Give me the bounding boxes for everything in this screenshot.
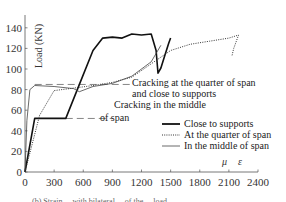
- y-tick-label: 140: [6, 22, 23, 34]
- x-tick-label: 2400: [247, 176, 270, 188]
- x-axis-label-epsilon: ε: [238, 156, 242, 167]
- x-tick-label: 1200: [131, 176, 154, 188]
- y-tick-label: 40: [11, 125, 23, 137]
- legend-label-close-to-supports: Close to supports: [184, 118, 254, 129]
- load-strain-chart: 020406080100120140 030060090012001500180…: [0, 0, 286, 202]
- annotation-quarter-line1: Cracking at the quarter of span: [132, 77, 256, 88]
- y-axis-label: Load (KN): [33, 24, 45, 68]
- x-tick-label: 0: [22, 176, 28, 188]
- y-tick-label: 20: [11, 145, 23, 157]
- figure-caption: (b) Strain ... with bilateral ... of the…: [32, 197, 175, 202]
- x-axis-label-mu: μ: [221, 156, 227, 167]
- x-tick-label: 600: [75, 176, 92, 188]
- x-tick-label: 300: [46, 176, 63, 188]
- legend-label-middle-of-span: In the middle of span: [184, 140, 269, 151]
- y-tick-label: 60: [11, 104, 23, 116]
- y-tick-label: 80: [11, 84, 23, 96]
- annotation-middle-line2: of span: [100, 112, 129, 123]
- x-tick-label: 900: [104, 176, 121, 188]
- y-tick-label: 120: [6, 42, 23, 54]
- y-ticks: 020406080100120140: [6, 22, 28, 178]
- x-tick-label: 1500: [160, 176, 183, 188]
- legend: Close to supports At the quarter of span…: [162, 118, 271, 151]
- y-tick-label: 100: [6, 63, 23, 75]
- x-tick-label: 1800: [189, 176, 212, 188]
- x-tick-label: 2100: [218, 176, 241, 188]
- annotation-middle-line1: Cracking in the middle: [114, 99, 206, 110]
- legend-label-quarter-of-span: At the quarter of span: [184, 129, 271, 140]
- annotation-quarter-line2: and close to supports: [132, 88, 216, 99]
